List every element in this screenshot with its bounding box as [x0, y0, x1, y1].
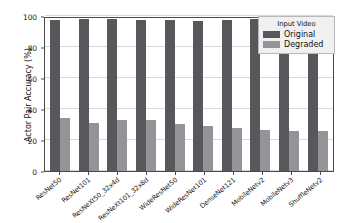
legend: Input Video OriginalDegraded [258, 16, 335, 54]
bar-group [132, 18, 161, 171]
bar-degraded [60, 118, 70, 171]
y-tick-label: 20 [28, 137, 37, 146]
x-tick-mark [88, 172, 89, 175]
bar-degraded [318, 131, 328, 171]
bar-degraded [289, 131, 299, 171]
x-tick-mark [204, 172, 205, 175]
legend-item[interactable]: Degraded [263, 40, 330, 49]
legend-item[interactable]: Original [263, 30, 330, 39]
legend-label: Degraded [284, 40, 323, 49]
bar-group [75, 18, 104, 171]
x-tick-mark [117, 172, 118, 175]
bar-degraded [232, 128, 242, 171]
bar-degraded [260, 130, 270, 171]
bar-original [107, 19, 117, 171]
bar-degraded [175, 124, 185, 171]
x-axis-labels: ResNet50ResNet101ResNeXt50_32x4dResNeXt1… [44, 176, 334, 223]
y-axis-ticks: 020406080100 [0, 17, 44, 172]
x-tick-mark [146, 172, 147, 175]
bar-original [193, 21, 203, 171]
bar-group [189, 18, 218, 171]
x-tick-label: ResNet50 [34, 176, 63, 202]
legend-label: Original [284, 30, 315, 39]
x-tick-mark [262, 172, 263, 175]
legend-swatch [263, 41, 280, 48]
x-tick-mark [233, 172, 234, 175]
bar-original [136, 20, 146, 171]
y-tick-label: 80 [28, 44, 37, 53]
bar-original [165, 20, 175, 171]
y-tick-label: 40 [28, 106, 37, 115]
y-tick-label: 0 [32, 168, 37, 177]
bar-group [46, 18, 75, 171]
bar-original [222, 20, 232, 171]
bar-original [79, 19, 89, 171]
chart-figure: Actor Pair Accuracy (%) 020406080100 Res… [0, 0, 344, 223]
x-tick-mark [320, 172, 321, 175]
legend-title: Input Video [263, 20, 330, 28]
y-tick-label: 100 [23, 13, 37, 22]
x-tick-mark [175, 172, 176, 175]
bar-group [218, 18, 247, 171]
bar-degraded [146, 120, 156, 171]
x-tick-label: ResNeXt101_32x8d [96, 176, 149, 223]
bar-degraded [117, 120, 127, 171]
bar-degraded [203, 126, 213, 171]
legend-swatch [263, 31, 280, 38]
bar-group [160, 18, 189, 171]
legend-items: OriginalDegraded [263, 30, 330, 49]
bar-original [50, 20, 60, 171]
bar-degraded [89, 123, 99, 171]
x-tick-mark [59, 172, 60, 175]
y-tick-label: 60 [28, 75, 37, 84]
x-tick-mark [291, 172, 292, 175]
bar-group [103, 18, 132, 171]
